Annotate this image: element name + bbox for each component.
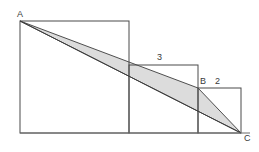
side-label-small-square: 2 bbox=[215, 77, 220, 86]
vertex-label-b: B bbox=[200, 77, 206, 86]
vertex-label-a: A bbox=[17, 10, 23, 19]
side-label-medium-square: 3 bbox=[157, 53, 162, 62]
large-square bbox=[20, 21, 129, 133]
diagonal-a-to-c bbox=[20, 21, 241, 133]
vertex-label-c: C bbox=[244, 134, 251, 143]
figure-canvas bbox=[0, 0, 259, 152]
geometry-figure: A B C 3 2 bbox=[0, 0, 259, 152]
